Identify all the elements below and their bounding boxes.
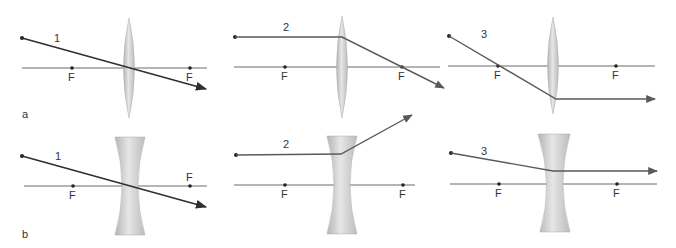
focal-point-left — [497, 182, 501, 186]
panel-a2: F F 2 — [233, 16, 444, 118]
focal-label-right: F — [398, 70, 405, 82]
ray-1 — [22, 38, 206, 89]
ray-number: 2 — [283, 21, 289, 33]
focal-point-right — [614, 64, 618, 68]
focal-label-right: F — [399, 188, 406, 200]
ray-2 — [236, 115, 412, 155]
focal-point-right — [188, 66, 192, 70]
focal-point-left — [283, 183, 287, 187]
focal-point-right — [401, 183, 405, 187]
diverging-lens — [538, 134, 570, 232]
ray-number: 1 — [54, 32, 60, 44]
panel-b3: F F 3 — [449, 134, 657, 232]
focal-label-left: F — [495, 187, 502, 199]
ray-number: 1 — [55, 150, 61, 162]
focal-point-left — [71, 184, 75, 188]
focal-label-left: F — [494, 69, 501, 81]
panel-a3: F F 3 — [447, 17, 655, 114]
converging-lens — [337, 16, 348, 118]
ray-number: 3 — [481, 28, 487, 40]
focal-label-left: F — [69, 189, 76, 201]
focal-point-right — [615, 182, 619, 186]
ray-number: 3 — [481, 145, 487, 157]
focal-point-left — [283, 65, 287, 69]
focal-label-left: F — [281, 70, 288, 82]
focal-label-right: F — [612, 69, 619, 81]
focal-point-right — [188, 184, 192, 188]
focal-label-left: F — [281, 188, 288, 200]
focal-label-right: F — [613, 187, 620, 199]
panel-a1: F F 1 — [20, 18, 207, 118]
row-label-b: b — [22, 228, 28, 240]
focal-point-left — [70, 66, 74, 70]
lens-ray-diagram: a b F F 1 F F 2 — [0, 0, 676, 248]
focal-label-right: F — [186, 171, 193, 183]
panel-b2: F F 2 — [234, 115, 415, 234]
panel-b1: F F 1 — [20, 137, 207, 235]
focal-label-left: F — [68, 71, 75, 83]
focal-label-right: F — [186, 71, 193, 83]
row-label-a: a — [22, 108, 29, 120]
ray-number: 2 — [283, 138, 289, 150]
ray-1 — [22, 156, 206, 207]
